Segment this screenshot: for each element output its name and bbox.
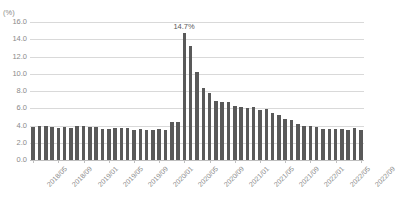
y-axis-tick-label: 16.0: [0, 18, 27, 26]
bar: [353, 128, 357, 160]
y-axis-tick-label: 10.0: [0, 70, 27, 78]
bar: [101, 129, 105, 160]
x-axis-labels: 2018/052018/092019/012019/052019/092020/…: [0, 163, 368, 200]
y-axis-tick-label: 6.0: [0, 104, 27, 112]
bar: [296, 124, 300, 160]
bar-series: [30, 22, 364, 160]
x-axis-tick-label: 2022/09: [373, 165, 397, 189]
x-axis-tick-label: 2021/09: [298, 165, 322, 189]
bar: [346, 130, 350, 160]
bar: [302, 126, 306, 160]
bar: [139, 129, 143, 160]
bar: [170, 122, 174, 160]
x-axis-tick-label: 2021/05: [272, 165, 296, 189]
x-axis-tick-label: 2022/05: [348, 165, 372, 189]
bar: [202, 88, 206, 160]
y-axis-tick-label: 2.0: [0, 139, 27, 147]
bar: [290, 120, 294, 160]
bar: [359, 130, 363, 160]
bar: [189, 46, 193, 160]
bar: [246, 108, 250, 160]
plot-area: 14.7%: [30, 22, 364, 160]
bar: [277, 115, 281, 160]
bar: [75, 126, 79, 160]
bar: [69, 128, 73, 160]
bar: [252, 107, 256, 160]
bar: [340, 129, 344, 160]
bar: [233, 106, 237, 160]
bar: [63, 127, 67, 160]
y-axis-labels: 0.02.04.06.08.010.012.014.016.0: [0, 22, 27, 160]
peak-value-annotation: 14.7%: [173, 22, 194, 31]
bar: [151, 130, 155, 160]
bar: [164, 130, 168, 160]
y-axis-tick-label: 14.0: [0, 35, 27, 43]
y-axis-unit-label: (%): [3, 8, 15, 17]
y-axis-tick-label: 12.0: [0, 53, 27, 61]
x-axis-tick-label: 2019/09: [146, 165, 170, 189]
bar: [132, 130, 136, 160]
x-axis-tick-label: 2021/01: [247, 165, 271, 189]
bar: [220, 102, 224, 160]
bar: [38, 126, 42, 161]
x-axis-tick-label: 2018/05: [46, 165, 70, 189]
x-axis-tick-label: 2019/01: [96, 165, 120, 189]
bar: [44, 126, 48, 160]
bar: [227, 102, 231, 160]
x-axis-tick-label: 2022/01: [323, 165, 347, 189]
bar: [321, 129, 325, 160]
x-axis-tick-label: 2020/05: [197, 165, 221, 189]
x-axis-tick-label: 2019/05: [121, 165, 145, 189]
y-axis-tick-label: 8.0: [0, 87, 27, 95]
bar: [82, 126, 86, 161]
x-axis-tick-label: 2020/09: [222, 165, 246, 189]
bar: [271, 113, 275, 160]
bar: [239, 107, 243, 160]
bar: [214, 101, 218, 161]
bar: [157, 129, 161, 160]
bar: [94, 127, 98, 160]
bar: [334, 129, 338, 160]
bar: [107, 129, 111, 160]
y-axis-tick-label: 4.0: [0, 122, 27, 130]
bar: [195, 72, 199, 160]
x-axis-tick-label: 2018/09: [71, 165, 95, 189]
bar: [283, 119, 287, 160]
bar: [88, 127, 92, 160]
bar: [145, 130, 149, 160]
bar: [50, 127, 54, 160]
bar: [57, 128, 61, 160]
bar: [113, 128, 117, 160]
bar: [265, 109, 269, 160]
bar: [176, 122, 180, 160]
bar: [309, 126, 313, 161]
x-axis-tick-label: 2020/01: [172, 165, 196, 189]
bar: [126, 128, 130, 160]
bar: [328, 129, 332, 160]
bar: [183, 33, 187, 160]
bar: [315, 127, 319, 160]
bar: [258, 110, 262, 160]
chart-title-clipped: [0, 0, 368, 1]
bar: [208, 93, 212, 160]
bar: [31, 127, 35, 160]
bar: [120, 128, 124, 160]
